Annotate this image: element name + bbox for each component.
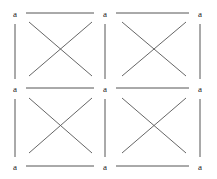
vertex-label-r0-c1: a	[98, 10, 112, 19]
vertex-label-r2-c1: a	[98, 163, 112, 172]
vertex-label-r1-c0: a	[8, 85, 22, 94]
vertex-label-r2-c0: a	[8, 163, 22, 172]
lattice-figure: aaaaaaaaa	[0, 0, 217, 179]
vertex-label-r1-c2: a	[193, 85, 207, 94]
vertex-label-r1-c1: a	[98, 85, 112, 94]
vertex-label-r0-c0: a	[8, 10, 22, 19]
vertex-label-r2-c2: a	[193, 163, 207, 172]
vertex-label-r0-c2: a	[193, 10, 207, 19]
